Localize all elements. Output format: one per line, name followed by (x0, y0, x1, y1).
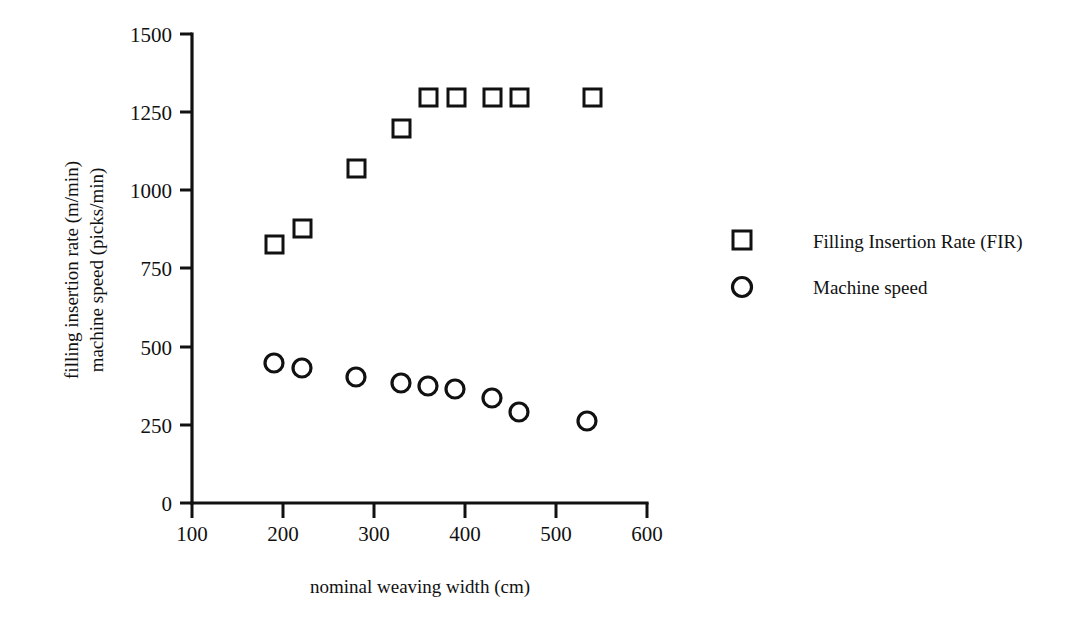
y-tick-label: 250 (141, 414, 173, 438)
y-axis-title-line2: machine speed (picks/min) (86, 168, 108, 373)
x-tick-label: 500 (540, 522, 572, 546)
y-tick-label: 1250 (130, 101, 172, 125)
x-axis-title: nominal weaving width (cm) (310, 576, 530, 598)
x-tick-label: 600 (631, 522, 663, 546)
scatter-plot-svg: 1500 1250 1000 750 500 250 0 100 200 300… (0, 0, 1086, 622)
x-tick-label: 200 (267, 522, 299, 546)
legend-label-machine-speed: Machine speed (813, 277, 928, 298)
legend-label-fir: Filling Insertion Rate (FIR) (813, 231, 1023, 253)
x-tick-label: 300 (358, 522, 390, 546)
chart-figure: 1500 1250 1000 750 500 250 0 100 200 300… (0, 0, 1086, 622)
y-tick-label: 500 (141, 336, 173, 360)
y-tick-label: 750 (141, 257, 173, 281)
y-tick-label: 1500 (130, 23, 172, 47)
y-tick-label: 0 (162, 492, 173, 516)
x-tick-label: 100 (176, 522, 208, 546)
y-axis-title-line1: filling insertion rate (m/min) (61, 161, 83, 379)
x-tick-label: 400 (449, 522, 481, 546)
y-tick-label: 1000 (130, 179, 172, 203)
